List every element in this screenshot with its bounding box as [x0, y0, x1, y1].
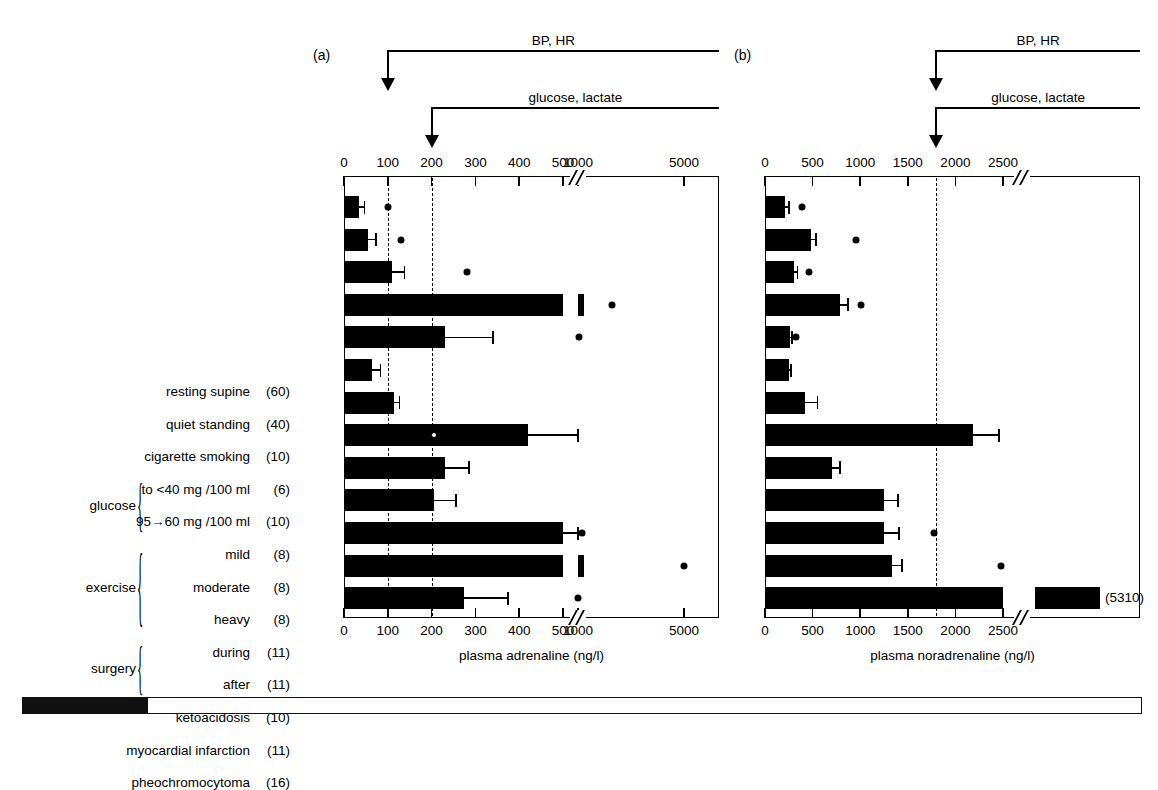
bar-note-b-12: (5310) — [1105, 590, 1144, 605]
bar-a-4 — [344, 326, 445, 348]
row-count-8: (11) — [250, 646, 290, 660]
error-bar-b-9 — [884, 500, 898, 502]
bar-a-3 — [344, 294, 563, 316]
row-label-3: to <40 mg /100 ml — [142, 483, 250, 497]
bar-b-9 — [765, 489, 884, 511]
error-cap-b-3 — [847, 298, 849, 311]
bar-b-7 — [765, 424, 973, 446]
error-bar-b-7 — [973, 434, 999, 436]
error-cap-b-11 — [901, 559, 903, 572]
tick-label-a-0: 0 — [340, 624, 348, 638]
tick-label-a-6: 1000 — [563, 156, 593, 170]
error-cap-b-8 — [839, 461, 841, 474]
row-count-2: (10) — [250, 450, 290, 464]
group-brace-exercise: { — [137, 540, 157, 635]
error-cap-b-2 — [797, 266, 799, 279]
group-brace-surgery: { — [137, 638, 157, 701]
tick-label-a-1: 100 — [377, 156, 400, 170]
tick-label-b-2: 1000 — [845, 156, 875, 170]
error-cap-a-1 — [375, 233, 377, 246]
row-count-4: (10) — [250, 515, 290, 529]
error-bar-a-10 — [563, 532, 578, 534]
error-cap-b-0 — [788, 201, 790, 214]
tick-label-a-6: 1000 — [563, 624, 593, 638]
data-point-a-1 — [397, 236, 404, 243]
callout-stem-b-1 — [935, 107, 937, 135]
bar-b-2 — [765, 261, 794, 283]
panel-letter-a: (a) — [313, 47, 330, 63]
error-bar-b-10 — [884, 532, 899, 534]
axis-break-a-1 — [570, 610, 586, 625]
tick-label-a-0: 0 — [340, 156, 348, 170]
bar-a-5 — [344, 359, 372, 381]
row-label-11: myocardial infarction — [126, 744, 250, 758]
tick-a-4 — [518, 608, 520, 618]
tick-label-b-0: 0 — [761, 156, 769, 170]
error-bar-a-2 — [392, 271, 404, 273]
tick-b-5 — [1002, 608, 1004, 618]
row-label-0: resting supine — [166, 385, 250, 399]
error-cap-b-6 — [817, 396, 819, 409]
brace-glyph: { — [137, 475, 157, 533]
data-point-b-3 — [858, 301, 865, 308]
bar-a-10 — [344, 522, 563, 544]
error-cap-b-10 — [898, 527, 900, 540]
callout-arrowhead-a-0 — [381, 78, 395, 91]
bar-b-11 — [765, 555, 892, 577]
bar-b-10 — [765, 522, 884, 544]
error-cap-a-3 — [583, 298, 585, 311]
error-bar-a-8 — [445, 467, 469, 469]
row-count-7: (8) — [250, 613, 290, 627]
row-count-1: (40) — [250, 418, 290, 432]
tick-label-a-3: 300 — [464, 624, 487, 638]
error-cap-a-12 — [507, 592, 509, 605]
panel-letter-b: (b) — [734, 47, 751, 63]
data-point-a-2 — [463, 269, 470, 276]
callout-label-a-1: glucose, lactate — [528, 90, 622, 105]
callout-line-a-0 — [388, 50, 719, 52]
bar-a-2 — [344, 261, 392, 283]
tick-label-b-2: 1000 — [845, 624, 875, 638]
tick-label-b-4: 2000 — [940, 624, 970, 638]
row-label-1: quiet standing — [166, 418, 250, 432]
tick-a-0 — [343, 176, 345, 186]
data-point-a-10 — [578, 530, 585, 537]
tick-label-a-3: 300 — [464, 156, 487, 170]
tick-label-a-1: 100 — [377, 624, 400, 638]
axis-title-b: plasma noradrenaline (ng/l) — [870, 648, 1034, 663]
tick-b-0 — [764, 608, 766, 618]
row-count-5: (8) — [250, 548, 290, 562]
axis-title-a: plasma adrenaline (ng/l) — [459, 648, 604, 663]
bar-a-11 — [344, 555, 563, 577]
row-count-12: (16) — [250, 776, 290, 790]
error-cap-a-7 — [577, 429, 579, 442]
error-cap-a-4 — [492, 331, 494, 344]
tick-a-4 — [518, 176, 520, 186]
tick-b-3 — [907, 176, 909, 186]
callout-label-b-1: glucose, lactate — [991, 90, 1085, 105]
row-count-9: (11) — [250, 678, 290, 692]
tick-a-3 — [475, 608, 477, 618]
tick-label-a-2: 200 — [420, 156, 443, 170]
bar-a-1 — [344, 229, 368, 251]
error-bar-a-4 — [445, 337, 493, 339]
group-brace-glucose: { — [137, 475, 157, 538]
tick-label-a-7: 5000 — [669, 624, 699, 638]
threshold-line-a-1 — [432, 178, 433, 616]
data-point-b-11 — [998, 562, 1005, 569]
error-bar-a-12 — [464, 597, 508, 599]
tick-label-b-5: 2500 — [988, 624, 1018, 638]
bar-segment2-b-12 — [1035, 587, 1100, 609]
error-cap-b-1 — [815, 233, 817, 246]
callout-arrowhead-b-0 — [929, 78, 943, 91]
tick-label-b-0: 0 — [761, 624, 769, 638]
tick-label-b-3: 1500 — [893, 624, 923, 638]
row-label-12: pheochromocytoma — [131, 776, 250, 790]
row-label-7: heavy — [214, 613, 250, 627]
tick-label-a-2: 200 — [420, 624, 443, 638]
callout-line-a-1 — [432, 107, 719, 109]
error-cap-a-5 — [380, 364, 382, 377]
row-label-9: after — [223, 678, 250, 692]
threshold-line-b-0 — [936, 178, 937, 616]
